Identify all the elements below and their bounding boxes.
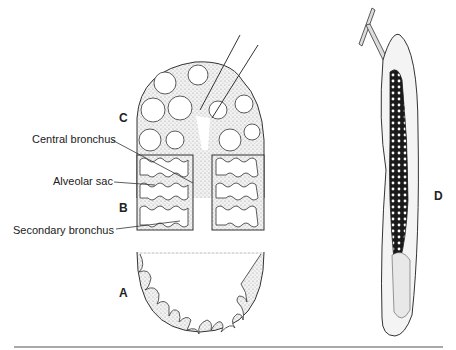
annotation-central-bronchus: Central bronchus — [32, 134, 116, 145]
panel-label-c: C — [119, 112, 128, 124]
panel-label-a: A — [119, 287, 128, 299]
section-a-lung-profile — [137, 252, 264, 334]
annotation-alveolar-sac: Alveolar sac — [53, 176, 113, 187]
panel-label-b: B — [119, 202, 128, 214]
panel-label-d: D — [434, 190, 443, 202]
annotation-secondary-bronchus: Secondary bronchus — [13, 225, 114, 236]
section-d-specimen — [359, 8, 418, 336]
